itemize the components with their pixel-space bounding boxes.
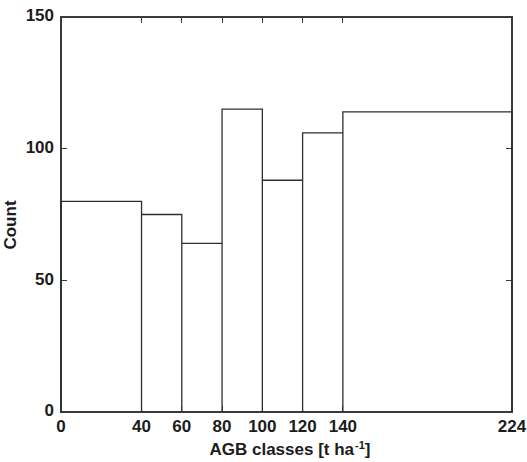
plot-background bbox=[61, 17, 512, 412]
y-axis-title: Count bbox=[1, 200, 20, 249]
y-tick-label-150: 150 bbox=[26, 6, 54, 25]
x-tick-label-100: 100 bbox=[248, 417, 276, 436]
y-tick-label-50: 50 bbox=[35, 270, 54, 289]
x-axis-title-superscript: -1 bbox=[355, 439, 365, 451]
x-tick-label-140: 140 bbox=[329, 417, 357, 436]
x-tick-label-60: 60 bbox=[172, 417, 191, 436]
x-tick-label-224: 224 bbox=[498, 417, 527, 436]
x-tick-label-0: 0 bbox=[56, 417, 65, 436]
x-axis-title-suffix: ] bbox=[365, 440, 371, 459]
x-axis-title-base: AGB classes [t ha bbox=[209, 440, 354, 459]
x-tick-label-120: 120 bbox=[288, 417, 316, 436]
y-axis-tick-labels: 050100150 bbox=[26, 6, 54, 420]
x-axis-tick-labels: 0406080100120140224 bbox=[56, 417, 526, 436]
chart-figure: 0406080100120140224 050100150 AGB classe… bbox=[0, 0, 527, 462]
histogram-chart: 0406080100120140224 050100150 AGB classe… bbox=[0, 0, 527, 462]
x-tick-label-40: 40 bbox=[132, 417, 151, 436]
x-tick-label-80: 80 bbox=[213, 417, 232, 436]
y-tick-label-0: 0 bbox=[45, 401, 54, 420]
y-tick-label-100: 100 bbox=[26, 138, 54, 157]
x-axis-title: AGB classes [t ha-1] bbox=[209, 439, 370, 459]
